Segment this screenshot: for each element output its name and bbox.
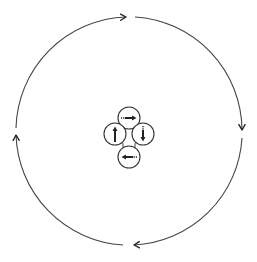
outer-cycle <box>16 17 242 245</box>
bottom-right-arc <box>134 138 242 245</box>
bottom-node <box>118 146 140 168</box>
bottom-left-arc <box>16 135 123 245</box>
left-node <box>104 123 126 145</box>
inner-cluster <box>104 107 154 168</box>
diagram-canvas: Clockwise cycle diagram <box>0 0 257 262</box>
cycle-diagram <box>0 0 257 262</box>
top-right-arc <box>135 17 242 130</box>
top-left-arc <box>16 17 126 128</box>
right-node <box>132 123 154 145</box>
